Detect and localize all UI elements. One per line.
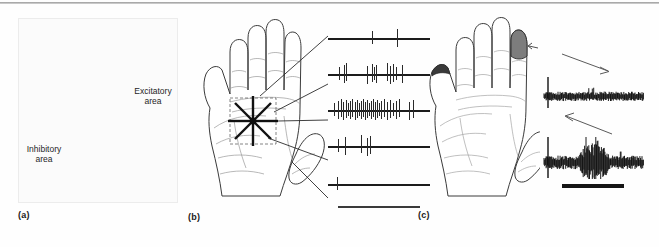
inhibitory-area-label: Inhibitory area bbox=[10, 144, 78, 164]
spike-mark bbox=[413, 100, 414, 118]
spike-mark bbox=[393, 64, 394, 82]
panel-c-graphics bbox=[420, 14, 540, 204]
spike-mark bbox=[393, 103, 394, 116]
spike-train-baseline bbox=[328, 184, 430, 186]
spike-mark bbox=[373, 99, 374, 117]
spike-mark bbox=[352, 99, 353, 117]
receptive-field-shape-c bbox=[511, 30, 527, 59]
spike-train-1 bbox=[328, 26, 430, 50]
spike-mark bbox=[367, 138, 368, 156]
spike-mark bbox=[402, 65, 403, 83]
spike-mark bbox=[338, 139, 339, 152]
spike-mark bbox=[350, 101, 351, 119]
spike-mark bbox=[390, 66, 391, 84]
spike-mark bbox=[374, 67, 375, 80]
spike-mark bbox=[372, 64, 373, 82]
spike-mark bbox=[377, 100, 378, 118]
spike-mark bbox=[357, 100, 358, 118]
spike-mark bbox=[387, 102, 388, 120]
spike-mark bbox=[355, 102, 356, 120]
emg-stimulus-bar bbox=[562, 184, 624, 188]
receptive-field-arrow-icon bbox=[528, 43, 538, 49]
spike-train-baseline bbox=[328, 74, 430, 76]
spike-mark bbox=[344, 65, 345, 83]
spike-mark bbox=[345, 137, 346, 155]
spike-mark bbox=[348, 103, 349, 116]
spike-mark bbox=[334, 103, 335, 116]
spike-mark bbox=[381, 101, 382, 119]
spike-mark bbox=[372, 31, 373, 44]
spike-mark bbox=[361, 101, 362, 119]
spike-mark bbox=[337, 177, 338, 190]
spike-mark bbox=[367, 66, 368, 84]
spike-mark bbox=[399, 99, 400, 117]
spike-mark bbox=[365, 102, 366, 120]
spike-train-2 bbox=[328, 62, 430, 86]
spike-mark bbox=[397, 29, 398, 47]
emg-direction-arrow-distal-icon bbox=[540, 48, 652, 78]
spike-mark bbox=[376, 65, 377, 83]
spike-mark bbox=[367, 100, 368, 118]
spike-mark bbox=[359, 103, 360, 116]
spike-train-3 bbox=[328, 98, 430, 122]
spike-mark bbox=[384, 99, 385, 117]
spike-mark bbox=[396, 67, 397, 80]
emg-trace-proximal bbox=[540, 136, 652, 180]
panel-b-label: (b) bbox=[188, 212, 200, 222]
spike-mark bbox=[341, 99, 342, 117]
spike-mark bbox=[379, 103, 380, 116]
panel-c-label: (c) bbox=[418, 210, 430, 220]
spike-mark bbox=[363, 99, 364, 117]
spike-mark bbox=[339, 67, 340, 80]
spike-mark bbox=[346, 100, 347, 118]
spike-mark bbox=[338, 101, 339, 119]
spike-mark bbox=[409, 102, 410, 120]
spike-train-group bbox=[328, 26, 430, 211]
spike-mark bbox=[371, 101, 372, 119]
spike-train-baseline bbox=[328, 38, 430, 40]
spike-train-5 bbox=[328, 172, 430, 196]
spike-mark bbox=[343, 102, 344, 120]
spike-train-scalebar bbox=[338, 206, 420, 208]
panel-c: (c) bbox=[420, 14, 540, 204]
emg-trace-distal bbox=[540, 76, 652, 110]
spike-mark bbox=[387, 63, 388, 81]
figure-container: Excitatory area Inhibitory area (a) bbox=[0, 0, 659, 247]
spike-mark bbox=[396, 101, 397, 119]
spike-mark bbox=[390, 100, 391, 118]
spike-train-baseline bbox=[328, 146, 430, 148]
spike-train-4 bbox=[328, 134, 430, 158]
panel-a-frame bbox=[18, 18, 178, 203]
spike-mark bbox=[370, 136, 371, 154]
excitatory-area-label: Excitatory area bbox=[118, 86, 188, 106]
panel-a-label: (a) bbox=[18, 210, 30, 220]
top-divider-rule bbox=[0, 2, 659, 4]
emg-recording-group bbox=[540, 48, 652, 198]
spike-mark bbox=[346, 63, 347, 81]
spike-mark bbox=[375, 102, 376, 120]
spike-mark bbox=[361, 135, 362, 153]
star-center-dot bbox=[250, 118, 257, 125]
panel-a: Excitatory area Inhibitory area (a) bbox=[18, 18, 178, 203]
spike-mark bbox=[369, 103, 370, 116]
